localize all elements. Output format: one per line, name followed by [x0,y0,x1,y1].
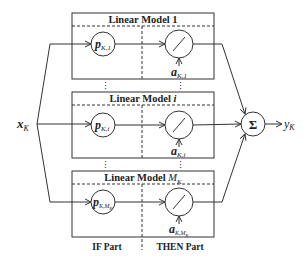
ellipsis: ⋮ [176,81,185,91]
then-part-label: THEN Part [156,242,204,252]
output-label: yK [283,117,295,132]
fuzzy-linear-model-diagram: Linear Model 1 Linear Model i Linear Mod… [0,0,307,258]
if-part-label: IF Part [92,242,122,252]
a-label-i: aK,i [171,144,185,159]
ellipsis: ⋮ [101,160,110,170]
p-label-i: pK,i [94,118,109,133]
ellipsis: ⋮ [101,81,110,91]
model-title-1: Linear Model 1 [108,14,177,25]
sum-symbol: Σ [249,117,258,132]
model-title-i: Linear Model i [110,93,177,104]
ellipsis: ⋮ [176,160,185,170]
p-label-m: pK,MK [92,195,114,211]
a-label-m: aK,MK [169,222,190,238]
input-label: xK [16,116,30,133]
p-label-1: pK,1 [94,37,111,52]
a-label-1: aK,1 [171,65,187,80]
